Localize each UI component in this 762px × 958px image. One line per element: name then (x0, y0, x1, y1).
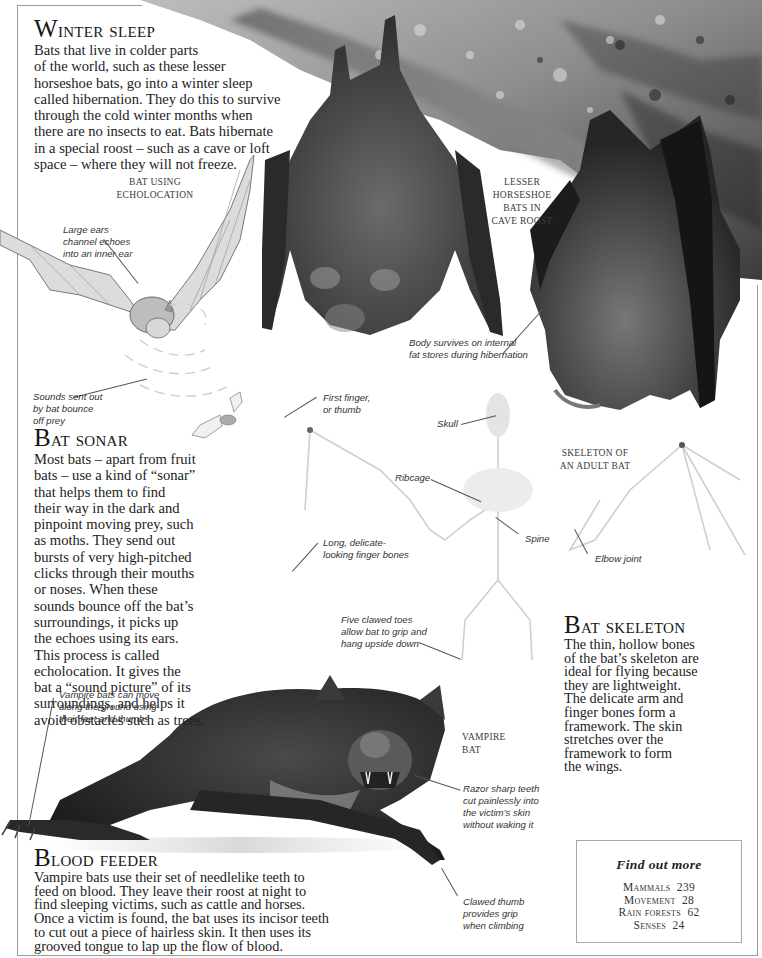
text-line: their way in the dark and (34, 500, 205, 516)
text-line: in a special roost – such as a cave or l… (34, 140, 281, 156)
heading-bat-sonar: Bat sonar (34, 426, 205, 451)
caption-line: bats in (487, 202, 557, 215)
topic-label: Rain forests (618, 906, 681, 918)
text-line: horseshoe bats, go into a winter sleep (34, 75, 281, 91)
text-line: clicks through their mouths (34, 565, 205, 581)
find-out-more-list: Mammals 239 Movement 28 Rain forests 62 … (577, 881, 741, 931)
caption-line: Skeleton of (540, 447, 650, 460)
page-number: 239 (677, 881, 695, 893)
text-line: or noses. When these (34, 581, 205, 597)
label-elbow-joint: Elbow joint (595, 553, 641, 565)
page-number: 24 (672, 919, 684, 931)
label-line: into an inner ear (63, 248, 132, 260)
caption-echolocation: Bat using echolocation (100, 176, 210, 202)
text-line: Bats that live in colder parts (34, 42, 281, 58)
body-bat-sonar: Most bats – apart from fruit bats – use … (34, 451, 205, 728)
find-out-more-title: Find out more (577, 857, 741, 873)
label-line: looking finger bones (323, 549, 409, 561)
label-ribcage: Ribcage (395, 472, 430, 484)
text-line: Most bats – apart from fruit (34, 451, 205, 467)
caption-line: an adult bat (540, 460, 650, 473)
label-skull: Skull (437, 418, 458, 430)
text-line: sounds bounce off the bat’s (34, 598, 205, 614)
label-line: by bat bounce (33, 403, 102, 415)
label-large-ears: Large ears channel echoes into an inner … (63, 224, 132, 260)
label-line: Elbow joint (595, 553, 641, 565)
caption-line: bat (462, 744, 506, 757)
text-line: that helps them to find (34, 484, 205, 500)
label-sounds-sent: Sounds sent out by bat bounce off prey (33, 391, 102, 427)
label-line: provides grip (463, 908, 524, 920)
caption-line: Vampire (462, 731, 506, 744)
caption-line: cave roost (487, 215, 557, 228)
text-line: the wings. (564, 760, 699, 774)
text-line: as moths. They send out (34, 532, 205, 548)
heading-winter-sleep: Winter sleep (34, 17, 281, 42)
label-line: hang upside down (341, 638, 427, 650)
find-out-more-box: Find out more Mammals 239 Movement 28 Ra… (576, 840, 742, 943)
label-line: allow bat to grip and (341, 626, 427, 638)
caption-line: Lesser (487, 176, 557, 189)
find-out-more-item-rain-forests[interactable]: Rain forests 62 (577, 906, 741, 919)
text-line: echolocation. It gives the (34, 663, 205, 679)
topic-label: Movement (624, 894, 676, 906)
label-vampire-move: Vampire bats can move along the ground u… (59, 689, 159, 725)
label-line: without waking it (463, 819, 539, 831)
label-line: off prey (33, 415, 102, 427)
label-line: when climbing (463, 920, 524, 932)
label-finger-bones: Long, delicate- looking finger bones (323, 537, 409, 561)
section-winter-sleep: Winter sleep Bats that live in colder pa… (34, 17, 281, 172)
text-line: through the cold winter months when (34, 107, 281, 123)
label-first-finger: First finger, or thumb (323, 392, 370, 416)
text-line: there are no insects to eat. Bats hibern… (34, 123, 281, 139)
text-line: This process is called (34, 647, 205, 663)
section-bat-sonar: Bat sonar Most bats – apart from fruit b… (34, 426, 205, 728)
caption-line: echolocation (100, 189, 210, 202)
caption-line: horseshoe (487, 189, 557, 202)
label-line: Ribcage (395, 472, 430, 484)
label-line: their feet and thumbs (59, 713, 159, 725)
label-line: Five clawed toes (341, 614, 427, 626)
label-body-survives: Body survives on internal fat stores dur… (409, 337, 528, 361)
text-line: bursts of very high-pitched (34, 549, 205, 565)
text-line: pinpoint moving prey, such (34, 516, 205, 532)
label-line: fat stores during hibernation (409, 349, 528, 361)
heading-bat-skeleton: Bat skeleton (564, 613, 699, 638)
text-line: space – where they will not freeze. (34, 156, 281, 172)
label-line: Clawed thumb (463, 896, 524, 908)
page-number: 28 (682, 894, 694, 906)
section-bat-skeleton: Bat skeleton The thin, hollow bones of t… (564, 613, 699, 774)
body-blood-feeder: Vampire bats use their set of needlelike… (34, 871, 329, 953)
topic-label: Senses (633, 919, 666, 931)
find-out-more-item-mammals[interactable]: Mammals 239 (577, 881, 741, 894)
caption-skeleton: Skeleton of an adult bat (540, 447, 650, 473)
label-spine: Spine (525, 533, 550, 545)
caption-vampire: Vampire bat (462, 731, 506, 757)
label-five-toes: Five clawed toes allow bat to grip and h… (341, 614, 427, 650)
label-line: channel echoes (63, 236, 132, 248)
label-clawed-thumb: Clawed thumb provides grip when climbing (463, 896, 524, 932)
text-line: of the world, such as these lesser (34, 58, 281, 74)
find-out-more-item-senses[interactable]: Senses 24 (577, 919, 741, 932)
label-line: along the ground using (59, 701, 159, 713)
page-frame-bottom-rule (17, 955, 758, 956)
body-winter-sleep: Bats that live in colder parts of the wo… (34, 42, 281, 172)
text-line: bats – use a kind of “sonar” (34, 467, 205, 483)
label-line: the victim’s skin (463, 807, 539, 819)
topic-label: Mammals (623, 881, 670, 893)
label-line: Long, delicate- (323, 537, 409, 549)
text-line: called hibernation. They do this to surv… (34, 91, 281, 107)
page-number: 62 (687, 906, 699, 918)
find-out-more-item-movement[interactable]: Movement 28 (577, 894, 741, 907)
label-line: cut painlessly into (463, 795, 539, 807)
label-line: Sounds sent out (33, 391, 102, 403)
body-bat-skeleton: The thin, hollow bones of the bat’s skel… (564, 638, 699, 774)
label-line: Razor sharp teeth (463, 783, 539, 795)
text-line: the echoes using its ears. (34, 630, 205, 646)
caption-horseshoe: Lesser horseshoe bats in cave roost (487, 176, 557, 228)
label-razor-teeth: Razor sharp teeth cut painlessly into th… (463, 783, 539, 831)
label-line: Body survives on internal (409, 337, 528, 349)
label-line: Spine (525, 533, 550, 545)
label-line: or thumb (323, 404, 370, 416)
label-line: Large ears (63, 224, 132, 236)
